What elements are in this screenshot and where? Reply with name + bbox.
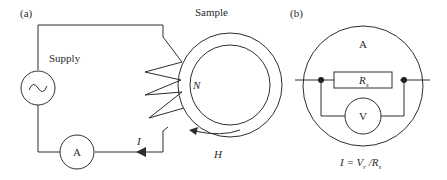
resistor-subscript: s	[366, 81, 369, 89]
enclosure-label: A	[359, 38, 367, 50]
formula-mid: /R	[366, 156, 379, 168]
current-arrow-icon	[136, 147, 146, 157]
diagram-canvas: (a) Sample Supply A I N H	[0, 0, 447, 180]
formula-r-subscript: s	[379, 163, 382, 171]
sample-label: Sample	[195, 6, 228, 18]
shunt-formula: I = Vr /Rs	[339, 156, 382, 171]
shunt-resistor: R s	[334, 72, 392, 89]
wire-left	[38, 105, 60, 152]
ammeter-label: A	[73, 146, 81, 158]
voltmeter-icon: V	[345, 98, 381, 134]
ac-supply-icon	[21, 71, 55, 105]
field-label: H	[213, 148, 223, 160]
current-label: I	[136, 135, 142, 147]
ammeter-icon: A	[60, 135, 94, 169]
panel-b: (b) A R s V I = Vr /Rs	[290, 7, 430, 171]
field-arrow-arc	[194, 130, 240, 134]
wire-bottom	[95, 127, 168, 152]
resistor-label: R	[358, 74, 366, 86]
panel-a: (a) Sample Supply A I N H	[20, 6, 282, 169]
turns-label: N	[192, 79, 201, 91]
formula-lhs: I = V	[339, 156, 365, 168]
panel-b-label: (b)	[290, 7, 303, 20]
supply-label: Supply	[49, 52, 81, 64]
panel-a-label: (a)	[20, 7, 33, 20]
voltmeter-label: V	[359, 110, 367, 122]
svg-text:I = Vr /Rs: I = Vr /Rs	[339, 156, 382, 171]
field-arrow-icon	[189, 127, 198, 135]
